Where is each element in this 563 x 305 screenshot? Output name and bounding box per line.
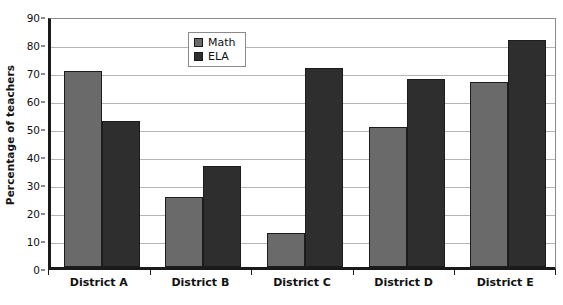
y-axis-title-text: Percentage of teachers: [4, 65, 16, 205]
y-axis-tick-mark: [41, 46, 45, 47]
x-axis-tick-mark: [454, 270, 455, 275]
x-axis-tick-mark: [48, 270, 49, 275]
x-axis-tick-mark: [251, 270, 252, 275]
bar-math-district-d: [369, 127, 407, 267]
bar-group: [356, 19, 458, 267]
bars-layer: [51, 19, 555, 267]
y-axis-tick-label: 20: [27, 208, 40, 220]
legend-label: Math: [208, 37, 236, 48]
x-axis-tick-label: District A: [70, 276, 128, 289]
y-axis-tick-label: 50: [27, 124, 40, 136]
y-axis-tick-mark: [41, 186, 45, 187]
plot-area: [48, 18, 556, 270]
legend-item-math: Math: [194, 37, 236, 48]
legend-swatch-icon: [194, 52, 203, 61]
bar-ela-district-d: [407, 79, 445, 267]
y-axis-tick-mark: [41, 130, 45, 131]
x-axis-tick-label: District B: [171, 276, 229, 289]
y-axis-tick-mark: [41, 214, 45, 215]
x-axis-tick-label: District C: [273, 276, 331, 289]
y-axis-tick-mark: [41, 18, 45, 19]
bar-math-district-a: [64, 71, 102, 267]
y-axis-tick-mark: [41, 102, 45, 103]
x-axis-tick-mark: [555, 270, 556, 275]
y-axis-tick-mark: [41, 74, 45, 75]
x-axis-tick-mark: [353, 270, 354, 275]
y-axis-tick-label: 90: [27, 12, 40, 24]
x-axis-tick-mark: [150, 270, 151, 275]
bar-group: [457, 19, 559, 267]
bar-math-district-b: [165, 197, 203, 267]
bar-chart: Percentage of teachers 01020304050607080…: [0, 0, 563, 305]
legend-label: ELA: [208, 51, 229, 62]
bar-math-district-e: [470, 82, 508, 267]
x-axis-tick-label: District E: [477, 276, 534, 289]
bar-ela-district-c: [305, 68, 343, 267]
legend-item-ela: ELA: [194, 51, 236, 62]
bar-ela-district-a: [102, 121, 140, 267]
bar-group: [51, 19, 153, 267]
y-axis-tick-label: 60: [27, 96, 40, 108]
x-axis-tick-labels: District ADistrict BDistrict CDistrict D…: [48, 276, 556, 300]
y-axis-tick-mark: [41, 270, 45, 271]
y-axis-tick-label: 0: [33, 264, 40, 276]
y-axis-tick-label: 30: [27, 180, 40, 192]
y-axis-tick-mark: [41, 158, 45, 159]
bar-ela-district-b: [203, 166, 241, 267]
y-axis-tick-label: 70: [27, 68, 40, 80]
y-axis-tick-labels: 0102030405060708090: [16, 18, 44, 270]
y-axis-tick-label: 80: [27, 40, 40, 52]
legend-swatch-icon: [194, 38, 203, 47]
y-axis-tick-label: 40: [27, 152, 40, 164]
x-axis-tick-label: District D: [374, 276, 433, 289]
bar-group: [254, 19, 356, 267]
y-axis-tick-mark: [41, 242, 45, 243]
bar-math-district-c: [267, 233, 305, 267]
legend: MathELA: [188, 32, 246, 67]
y-axis-tick-label: 10: [27, 236, 40, 248]
bar-ela-district-e: [508, 40, 546, 267]
